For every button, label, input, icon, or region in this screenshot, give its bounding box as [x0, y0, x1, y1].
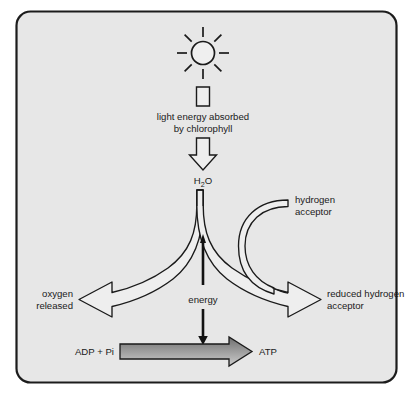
water-label-o: O — [205, 175, 212, 186]
photosynthesis-diagram: light energy absorbed by chlorophyll H2O… — [0, 0, 415, 398]
light-energy-label-line2: by chlorophyll — [174, 123, 233, 134]
oxygen-released-label-line2: released — [36, 300, 73, 311]
adp-pi-label: ADP + Pi — [75, 346, 114, 357]
oxygen-released-label-line1: oxygen — [42, 288, 73, 299]
hydrogen-acceptor-label-line2: acceptor — [295, 206, 333, 217]
reduced-hydrogen-acceptor-label-line1: reduced hydrogen — [327, 288, 404, 299]
hydrogen-acceptor-label-line1: hydrogen — [295, 194, 335, 205]
light-energy-label-line1: light energy absorbed — [157, 111, 249, 122]
sun-icon — [177, 27, 229, 79]
energy-label: energy — [188, 294, 218, 305]
atp-label: ATP — [259, 346, 277, 357]
diagram-root: light energy absorbed by chlorophyll H2O… — [0, 0, 415, 398]
water-label-h: H — [194, 175, 201, 186]
reduced-hydrogen-acceptor-label-line2: acceptor — [327, 300, 365, 311]
light-energy-arrow-shaft-upper — [197, 87, 210, 106]
diagram-frame — [17, 12, 397, 383]
